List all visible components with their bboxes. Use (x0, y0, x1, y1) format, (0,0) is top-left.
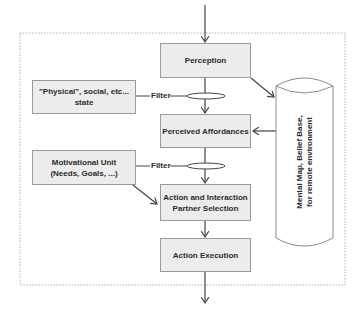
action-selection-label-1: Action and Interaction (163, 192, 247, 203)
perceived-affordances-label: Perceived Affordances (162, 126, 248, 137)
perceived-affordances-box: Perceived Affordances (160, 114, 251, 148)
mental-map-label-1: Mental Map, Belief Base, (295, 87, 305, 237)
filter2-ellipse (187, 163, 225, 169)
action-selection-label-2: Partner Selection (173, 203, 239, 214)
physical-state-label-1: "Physical", social, etc... (39, 86, 129, 97)
perception-to-mentalmap-arrow (251, 78, 274, 97)
filter1-label: Filter (151, 91, 171, 100)
motivational-unit-label-1: Motivational Unit (52, 157, 116, 168)
filter1-ellipse (187, 93, 225, 99)
perception-label: Perception (185, 55, 226, 66)
perception-box: Perception (160, 43, 251, 78)
motivational-unit-box: Motivational Unit (Needs, Goals, ...) (32, 150, 136, 185)
mental-map-label-2: for remote environment (305, 87, 315, 237)
mental-map-label: Mental Map, Belief Base, for remote envi… (295, 87, 315, 237)
filter2-label: Filter (151, 161, 171, 170)
action-execution-label: Action Execution (173, 250, 238, 261)
action-execution-box: Action Execution (160, 238, 251, 272)
action-selection-box: Action and Interaction Partner Selection (160, 184, 251, 221)
motivational-unit-label-2: (Needs, Goals, ...) (50, 168, 117, 179)
motivational-to-selection-arrow (133, 185, 157, 204)
physical-state-label-2: state (75, 97, 94, 108)
physical-state-box: "Physical", social, etc... state (32, 80, 136, 114)
